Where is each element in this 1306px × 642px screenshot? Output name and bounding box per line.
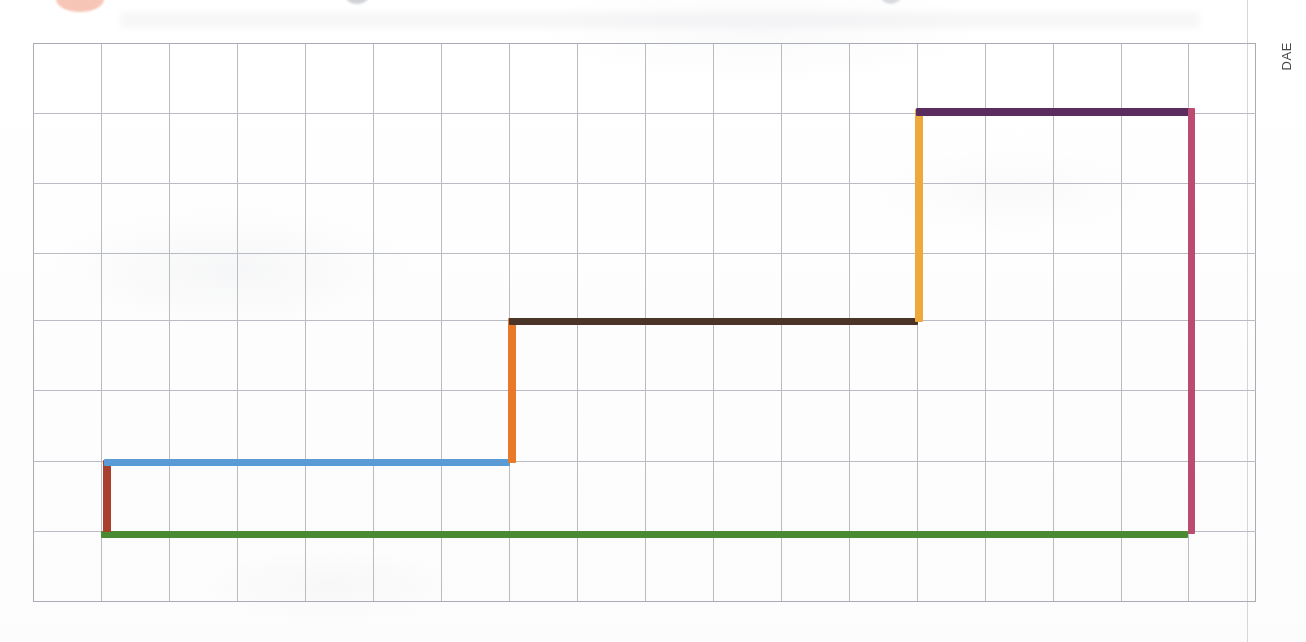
scanned-chart-page: DAE bbox=[0, 0, 1306, 642]
gridline-v bbox=[169, 43, 170, 601]
series-riser-1 bbox=[103, 460, 111, 532]
gridline-h bbox=[33, 253, 1256, 254]
gridline-v bbox=[101, 43, 102, 601]
gridline-v bbox=[1053, 43, 1054, 601]
ink-smudge-grey-1 bbox=[344, 0, 370, 4]
gridline-v bbox=[33, 43, 34, 601]
ink-smudge-grey-2 bbox=[880, 0, 902, 4]
series-closing-drop bbox=[1188, 108, 1195, 534]
page-side-label: DAE bbox=[1279, 42, 1294, 71]
gridline-h bbox=[33, 601, 1256, 602]
series-step-3 bbox=[916, 108, 1190, 116]
series-riser-2 bbox=[508, 318, 516, 463]
gridline-h bbox=[33, 43, 1256, 44]
series-riser-3 bbox=[915, 109, 923, 322]
chart-grid-area bbox=[33, 43, 1256, 601]
series-step-1 bbox=[104, 459, 510, 466]
gridline-h bbox=[33, 390, 1256, 391]
gridline-h bbox=[33, 183, 1256, 184]
gridline-v bbox=[305, 43, 306, 601]
series-step-2 bbox=[509, 318, 918, 325]
gridline-v bbox=[237, 43, 238, 601]
ink-smudge-salmon bbox=[56, 0, 104, 12]
gridline-v bbox=[373, 43, 374, 601]
gridline-v bbox=[1255, 43, 1256, 601]
ink-smudge-faint-row bbox=[120, 12, 1200, 28]
gridline-v bbox=[441, 43, 442, 601]
cropped-handwriting-strip bbox=[0, 0, 1306, 34]
series-baseline bbox=[101, 531, 1188, 538]
gridline-v bbox=[985, 43, 986, 601]
gridline-v bbox=[1121, 43, 1122, 601]
